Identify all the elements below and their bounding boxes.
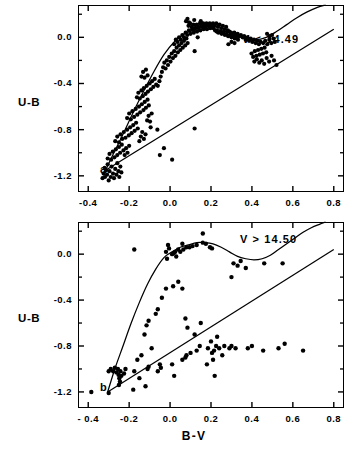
data-point [137, 376, 141, 380]
data-point [156, 307, 160, 311]
data-point [280, 261, 284, 265]
data-point [205, 362, 209, 366]
panel-a-annotation: V < 14.49 [242, 33, 299, 45]
data-point [222, 344, 226, 348]
y-tick-label: 0.0 [32, 248, 72, 259]
data-point [186, 41, 190, 45]
x-tick-label: 0.6 [273, 413, 313, 424]
data-point [162, 146, 166, 150]
data-point [168, 59, 172, 63]
data-point [276, 346, 280, 350]
data-point [206, 346, 210, 350]
data-point [172, 49, 176, 53]
panel-b-annotation: V > 14.50 [240, 233, 297, 245]
data-point [154, 312, 158, 316]
data-point [107, 169, 111, 173]
data-point [238, 259, 242, 263]
data-point [199, 321, 203, 325]
data-point [160, 70, 164, 74]
panel-a-y-axis-title: U-B [18, 96, 40, 108]
y-tick-label: -1.2 [32, 170, 72, 181]
data-point [201, 231, 205, 235]
data-point [173, 54, 177, 58]
data-point [166, 243, 170, 247]
data-point [149, 125, 153, 129]
data-point [159, 366, 163, 370]
data-point [196, 35, 200, 39]
data-point [148, 119, 152, 123]
data-point [267, 59, 271, 63]
data-point [229, 344, 233, 348]
data-point [212, 348, 216, 352]
data-point [250, 344, 254, 348]
data-point [233, 346, 237, 350]
data-point [215, 335, 219, 339]
data-point [137, 139, 141, 143]
data-point [157, 79, 161, 83]
data-point [106, 162, 110, 166]
data-point [170, 362, 174, 366]
x-axis-title: B-V [182, 429, 206, 443]
x-tick-label: 0.2 [191, 413, 231, 424]
data-point [125, 116, 129, 120]
data-point [139, 353, 143, 357]
data-point [143, 132, 147, 136]
data-point [132, 369, 136, 373]
data-point [144, 323, 148, 327]
data-point [158, 153, 162, 157]
x-tick-label: 0.8 [314, 413, 351, 424]
data-point [190, 244, 194, 248]
data-point [117, 175, 121, 179]
data-point [264, 50, 268, 54]
data-point [115, 161, 119, 165]
data-point [136, 126, 140, 130]
reddening-line [108, 250, 334, 392]
data-point [229, 275, 233, 279]
data-point [160, 296, 164, 300]
data-point [156, 369, 160, 373]
data-point [113, 139, 117, 143]
data-point [156, 84, 160, 88]
data-point [146, 364, 150, 368]
data-point [166, 63, 170, 67]
data-point [150, 111, 154, 115]
data-point [193, 49, 197, 53]
data-point [172, 374, 176, 378]
x-tick-label: -0.4 [68, 197, 108, 208]
data-point [262, 261, 266, 265]
data-point [163, 66, 167, 70]
data-point [123, 367, 127, 371]
data-point [180, 286, 184, 290]
data-point [118, 165, 122, 169]
x-tick-label: 0.8 [314, 197, 351, 208]
data-point [255, 57, 259, 61]
data-point [212, 374, 216, 378]
data-point [100, 176, 104, 180]
data-point [176, 280, 180, 284]
data-point [220, 353, 224, 357]
y-tick-label: -0.8 [32, 124, 72, 135]
data-point [155, 128, 159, 132]
data-point [122, 371, 126, 375]
data-point [210, 246, 214, 250]
data-point [119, 170, 123, 174]
x-tick-label: - 0.4 [68, 413, 108, 424]
panel-b-plot-canvas [78, 222, 344, 408]
data-point [231, 261, 235, 265]
data-point [132, 247, 136, 251]
data-point [209, 339, 213, 343]
panel-b-data-points [89, 231, 305, 395]
data-point [272, 58, 276, 62]
data-point [183, 316, 187, 320]
data-point [198, 344, 202, 348]
data-point [165, 257, 169, 261]
y-tick-label: -0.8 [32, 340, 72, 351]
panel-b: U-B V > 14.50 b - 0.4-0.20.00.20.40.60.8… [0, 215, 351, 451]
data-point [171, 284, 175, 288]
x-tick-label: 0.4 [232, 197, 272, 208]
data-point [146, 319, 150, 323]
panel-b-curves [108, 222, 334, 392]
data-point [185, 325, 189, 329]
data-point [194, 243, 198, 247]
intrinsic-main-sequence [108, 222, 326, 392]
